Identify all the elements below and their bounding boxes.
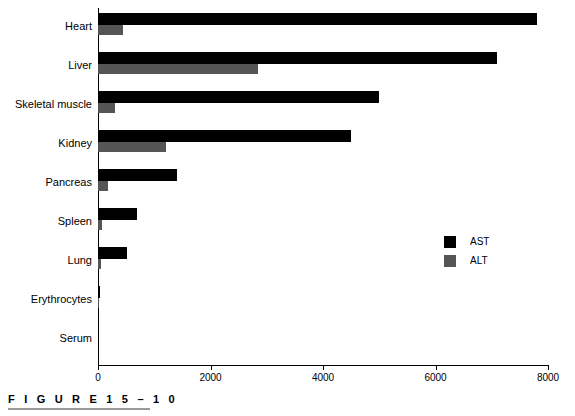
category-label: Lung [68,254,92,267]
x-axis-tick-mark [323,365,324,370]
bar-alt [98,181,108,191]
chart-legend: ASTALT [444,234,524,272]
bar-group-row: Skeletal muscle [0,87,575,126]
x-axis-tick-label: 8000 [518,372,575,384]
legend-swatch-alt [444,255,456,267]
bar-group-row: Kidney [0,126,575,165]
bar-ast [98,286,100,298]
x-axis-tick-label: 0 [68,372,128,384]
legend-label: ALT [470,254,488,268]
bar-ast [98,13,537,25]
bar-group-row: Pancreas [0,165,575,204]
x-axis-tick-label: 6000 [406,372,466,384]
category-label: Kidney [58,137,92,150]
legend-label: AST [470,235,489,249]
category-label: Erythrocytes [31,293,92,306]
category-label: Skeletal muscle [15,98,92,111]
bar-ast [98,91,379,103]
bar-alt [98,220,102,230]
bar-ast [98,169,177,181]
legend-entry: AST [444,234,524,253]
bar-ast [98,208,137,220]
bar-ast [98,247,127,259]
figure-caption-rule [8,408,150,410]
figure-root: HeartLiverSkeletal muscleKidneyPancreasS… [0,0,575,416]
bar-alt [98,298,99,308]
bar-group-row: Liver [0,48,575,87]
x-axis-tick-mark [436,365,437,370]
bar-alt [98,259,101,269]
x-axis-tick-label: 4000 [293,372,353,384]
legend-swatch-ast [444,236,456,248]
bar-alt [98,142,166,152]
figure-caption-text: F I G U R E 1 5 – 1 0 [8,392,408,406]
x-axis-tick-label: 2000 [181,372,241,384]
category-label: Pancreas [46,176,92,189]
bar-ast [98,130,351,142]
bar-group-row: Serum [0,321,575,360]
x-axis-tick-mark [211,365,212,370]
bar-group-row: Heart [0,9,575,48]
bar-group-row: Erythrocytes [0,282,575,321]
chart-plot-area: HeartLiverSkeletal muscleKidneyPancreasS… [0,0,575,390]
category-label: Serum [60,332,92,345]
x-axis-tick-mark [548,365,549,370]
category-label: Spleen [58,215,92,228]
legend-entry: ALT [444,253,524,272]
category-label: Heart [65,20,92,33]
bar-ast [98,52,497,64]
figure-caption-block: F I G U R E 1 5 – 1 0 [8,392,408,410]
category-label: Liver [68,59,92,72]
x-axis-tick-mark [98,365,99,370]
bar-alt [98,25,123,35]
bar-alt [98,103,115,113]
bar-alt [98,64,258,74]
